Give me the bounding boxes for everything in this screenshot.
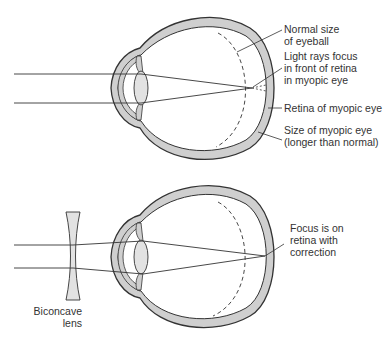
crystalline-lens [134, 240, 148, 274]
biconcave-lens[interactable] [66, 212, 80, 300]
crystalline-lens [134, 71, 148, 105]
myopic-eye [14, 18, 282, 160]
label-focus-front: Light rays focus in front of retina in m… [284, 50, 358, 86]
label-size-myopic: Size of myopic eye (longer than normal) [284, 124, 379, 148]
label-retina-myopic: Retina of myopic eye [284, 102, 382, 114]
label-focus-retina: Focus is on retina with correction [290, 222, 344, 258]
label-normal-size: Normal size of eyeball [284, 23, 339, 47]
label-biconcave-lens: Biconcave lens [26, 305, 82, 329]
